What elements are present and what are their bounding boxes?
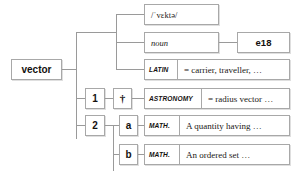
sense-1-domain-cell: ASTRONOMY [145,89,202,108]
subsense-a-definition-node: MATH. A quantity having … [144,115,290,136]
connector-spine-to-sense-1 [76,98,85,99]
subsense-a-node: a [119,115,138,136]
connector-to-etymology [116,69,144,70]
headword-node: vector [11,59,62,80]
sense-1-gloss-label: = radius vector … [202,94,273,104]
subsense-b-label: b [120,149,137,160]
connector-pos-to-date [218,42,237,43]
sense-number-1-node: 1 [85,88,105,109]
sense-number-2-node: 2 [85,115,105,136]
etymology-node: LATIN = carrier, traveller, … [144,59,290,80]
dictionary-entry-tree-diagram: vector /ˈvɛktə/ noun e18 LATIN = carrier… [0,0,306,179]
connector-spine-to-sense-2 [76,125,85,126]
connector-spine-to-entry-block [76,32,116,33]
connector-to-part-of-speech [116,42,144,43]
pronunciation-label: /ˈvɛktə/ [145,10,178,20]
subsense-a-label: a [120,120,137,131]
pronunciation-node: /ˈvɛktə/ [144,4,219,25]
etymology-language-cell: LATIN [145,60,178,79]
sense-1-definition-node: ASTRONOMY = radius vector … [144,88,290,109]
etymology-gloss-cell: = carrier, traveller, … [178,60,289,79]
connector-to-pronunciation [116,14,144,15]
first-use-date-label: e18 [238,37,289,48]
subsense-a-domain-label: MATH. [145,122,174,129]
part-of-speech-node: noun [144,32,219,53]
connector-marker-to-astronomy [132,98,144,99]
connector-sense-1-to-marker [105,98,113,99]
connector-main-spine [76,32,77,139]
etymology-gloss-label: = carrier, traveller, … [178,65,262,75]
first-use-date-node: e18 [237,32,290,53]
subsense-a-gloss-cell: A quantity having … [180,116,289,135]
connector-subsense-spine [113,125,114,171]
subsense-b-gloss-label: An ordered set … [180,150,250,160]
subsense-b-node: b [119,144,138,165]
subsense-b-domain-cell: MATH. [145,145,180,164]
sense-1-gloss-cell: = radius vector … [202,89,289,108]
subsense-b-definition-node: MATH. An ordered set … [144,144,290,165]
part-of-speech-label: noun [145,38,168,48]
sense-number-2-label: 2 [86,120,104,131]
connector-headword-stub [62,69,76,70]
subsense-a-domain-cell: MATH. [145,116,180,135]
sense-number-1-label: 1 [86,93,104,104]
connector-sense-2-stub [105,125,113,126]
sense-1-domain-label: ASTRONOMY [145,95,197,102]
subsense-a-gloss-label: A quantity having … [180,121,262,131]
etymology-language-label: LATIN [145,66,172,73]
obsolete-dagger-icon: † [114,93,131,104]
subsense-b-domain-label: MATH. [145,151,174,158]
subsense-b-gloss-cell: An ordered set … [180,145,289,164]
obsolete-dagger-node: † [113,88,132,109]
headword-label: vector [12,64,61,75]
